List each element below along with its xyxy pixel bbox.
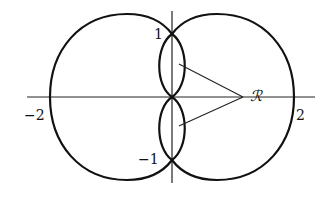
region-label-r: ℛ [250,89,262,104]
label-x-2: 2 [296,108,305,122]
region-pointer-upper [179,64,243,97]
diagram-canvas [0,0,329,212]
region-pointer-lower [179,97,243,126]
label-x-neg-2: −2 [24,108,45,122]
label-y-neg-1: −1 [138,152,159,166]
label-y-1: 1 [154,27,163,41]
polar-diagram: 1 −1 −2 2 ℛ [0,0,329,212]
